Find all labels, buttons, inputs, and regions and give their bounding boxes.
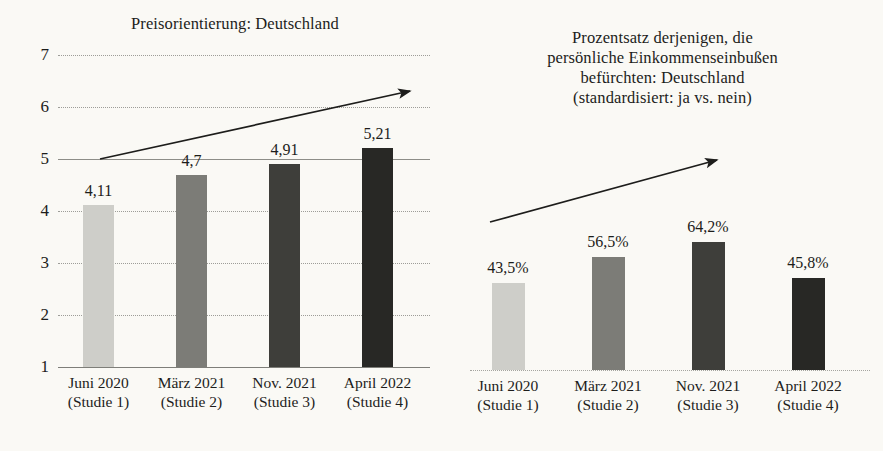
bar-value-label-4: 5,21 [338, 125, 418, 143]
plot-area-left: 7654321 4,114,74,915,21 [58, 55, 430, 367]
bar-3 [692, 242, 725, 370]
x-axis-category-label-4: April 2022(Studie 4) [318, 373, 438, 411]
bar-2 [592, 257, 625, 370]
chart-panel-right: Prozentsatz derjenigen, die persönliche … [440, 0, 883, 451]
bar-value-label-2: 4,7 [152, 152, 232, 170]
chart-title-right: Prozentsatz derjenigen, die persönliche … [490, 28, 835, 108]
y-axis-tick-5: 5 [41, 149, 50, 169]
bar-value-label-4: 45,8% [763, 254, 853, 272]
bar-1 [492, 283, 525, 370]
y-axis-tick-7: 7 [41, 45, 50, 65]
gridline-6 [58, 107, 430, 108]
bar-4 [362, 148, 393, 367]
y-axis-tick-6: 6 [41, 97, 50, 117]
x-axis-baseline [58, 367, 430, 368]
x-axis-category-label-4-line-2: (Studie 4) [748, 395, 868, 414]
bar-value-label-3: 64,2% [663, 218, 753, 236]
x-axis-baseline [470, 370, 870, 371]
bar-value-label-1: 4,11 [59, 182, 139, 200]
chart-title-right-line-2: persönliche Einkommenseinbußen [490, 48, 835, 68]
bar-2 [176, 175, 207, 367]
bar-1 [83, 205, 114, 367]
chart-title-right-line-4: (standardisiert: ja vs. nein) [490, 88, 835, 108]
x-axis-category-label-4: April 2022(Studie 4) [748, 376, 868, 414]
bar-value-label-3: 4,91 [245, 141, 325, 159]
figure-canvas: Preisorientierung: Deutschland 7654321 4… [0, 0, 883, 451]
bar-value-label-2: 56,5% [563, 233, 653, 251]
chart-title-right-line-3: befürchten: Deutschland [490, 68, 835, 88]
y-axis-tick-3: 3 [41, 253, 50, 273]
y-axis-tick-4: 4 [41, 201, 50, 221]
x-axis-category-label-4-line-2: (Studie 4) [318, 392, 438, 411]
gridline-7 [58, 55, 430, 56]
chart-panel-left: Preisorientierung: Deutschland 7654321 4… [0, 0, 450, 451]
plot-area-right: 43,5%56,5%64,2%45,8% [470, 190, 870, 370]
chart-title-left: Preisorientierung: Deutschland [55, 14, 415, 34]
x-axis-category-label-4-line-1: April 2022 [748, 376, 868, 395]
chart-title-right-line-1: Prozentsatz derjenigen, die [490, 28, 835, 48]
y-axis-tick-2: 2 [41, 305, 50, 325]
bar-3 [269, 164, 300, 367]
x-axis-category-label-4-line-1: April 2022 [318, 373, 438, 392]
bar-4 [792, 278, 825, 370]
bar-value-label-1: 43,5% [463, 259, 553, 277]
